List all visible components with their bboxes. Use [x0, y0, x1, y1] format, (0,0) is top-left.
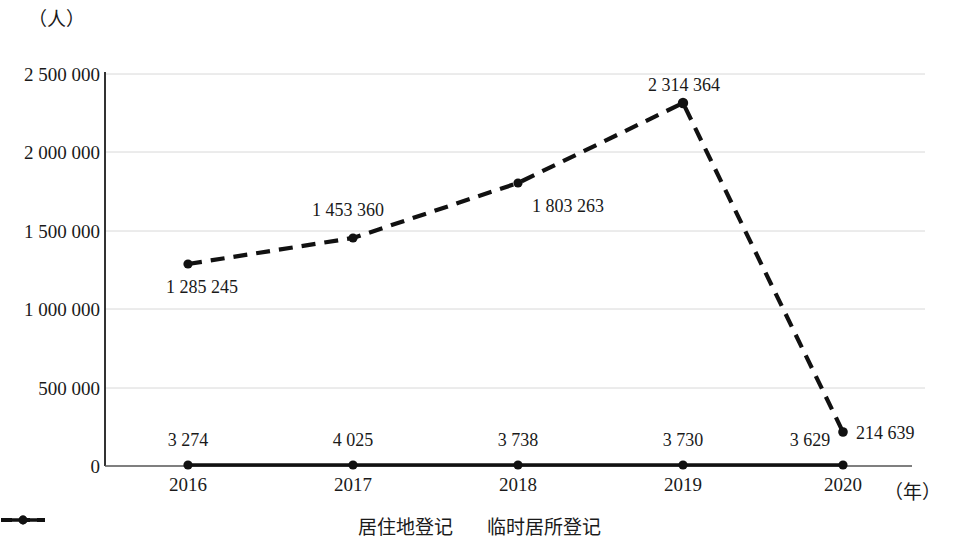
x-tick-2016: 2016 — [169, 474, 207, 496]
value-label-temporary-2020: 214 639 — [856, 423, 915, 444]
data-point-residence-2020 — [838, 460, 847, 469]
x-tick-2018: 2018 — [499, 474, 537, 496]
data-point-temporary-2016 — [183, 259, 192, 268]
data-point-temporary-2020 — [838, 427, 848, 437]
x-tick-2017: 2017 — [334, 474, 372, 496]
value-label-residence-2020: 3 629 — [790, 430, 831, 451]
chart-legend: 居住地登记 临时居所登记 — [0, 512, 959, 539]
data-point-residence-2018 — [513, 460, 522, 469]
legend-item-temporary-residence: 临时居所登记 — [487, 512, 601, 539]
series-markers-temporary-residence — [183, 98, 847, 437]
value-label-residence-2016: 3 274 — [168, 430, 209, 451]
value-label-residence-2019: 3 730 — [663, 430, 704, 451]
value-label-temporary-2018: 1 803 263 — [532, 196, 604, 217]
legend-label-residence-registration: 居住地登记 — [358, 512, 453, 539]
value-label-residence-2017: 4 025 — [333, 430, 374, 451]
data-point-residence-2016 — [183, 460, 192, 469]
value-label-residence-2018: 3 738 — [498, 430, 539, 451]
gridlines — [105, 74, 925, 388]
data-point-temporary-2019 — [678, 98, 688, 108]
x-tick-2019: 2019 — [664, 474, 702, 496]
legend-item-residence-registration: 居住地登记 — [358, 512, 453, 539]
value-label-temporary-2019: 2 314 364 — [648, 75, 720, 96]
legend-label-temporary-residence: 临时居所登记 — [487, 512, 601, 539]
data-point-residence-2017 — [348, 460, 357, 469]
line-chart: （人） （年） 2 500 000 2 000 000 1 500 000 1 … — [0, 0, 959, 544]
x-tick-2020: 2020 — [824, 474, 862, 496]
value-label-temporary-2017: 1 453 360 — [312, 200, 384, 221]
data-point-temporary-2017 — [348, 233, 357, 242]
plot-area — [0, 0, 959, 544]
value-label-temporary-2016: 1 285 245 — [166, 277, 238, 298]
data-point-residence-2019 — [678, 460, 687, 469]
legend-dashed-line-icon — [0, 512, 46, 528]
data-point-temporary-2018 — [513, 178, 522, 187]
